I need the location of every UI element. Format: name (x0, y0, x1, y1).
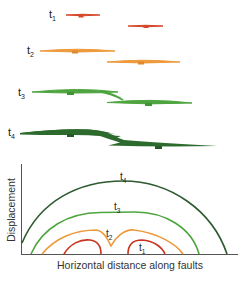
fault-block-t3-left (67, 92, 74, 95)
curve-label-t2: t2 (106, 228, 113, 241)
fault-block-t2-right (138, 62, 144, 65)
curve-t2 (42, 230, 183, 254)
curve-label-t4: t4 (120, 171, 127, 184)
fault-block-t2-left (72, 51, 78, 54)
stage-t1: t1 (49, 8, 163, 28)
fault-block-t3-right (145, 103, 152, 106)
fault-block-t1-right (144, 26, 149, 29)
displacement-plot: Displacement Horizontal distance along f… (5, 164, 238, 271)
stage-t2: t2 (27, 44, 180, 65)
stage-label-t4: t4 (8, 126, 15, 140)
curve-t1-left (64, 240, 101, 254)
x-axis-label: Horizontal distance along faults (57, 259, 203, 271)
fault-block-t4-right (155, 146, 162, 149)
stage-t3: t3 (18, 86, 192, 106)
fault-growth-diagram: t1 t2 t3 t4 Displacement Horizontal dist… (0, 0, 248, 281)
curve-t3 (31, 212, 199, 254)
stage-t4: t4 (8, 126, 218, 149)
stage-label-t2: t2 (27, 44, 34, 58)
curve-t1-right (128, 240, 165, 254)
curve-label-t3: t3 (114, 201, 121, 214)
fault-block-t4-left (67, 134, 74, 137)
fault-linked-t4-main (20, 129, 218, 146)
y-axis-label: Displacement (5, 178, 17, 242)
stage-label-t1: t1 (49, 8, 56, 22)
fault-block-t1-left (79, 15, 84, 18)
curve-label-t1: t1 (139, 242, 146, 255)
stage-label-t3: t3 (18, 86, 25, 100)
